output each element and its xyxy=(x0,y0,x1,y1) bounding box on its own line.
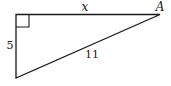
label-side-x: x xyxy=(82,0,89,14)
label-side-5: 5 xyxy=(7,39,14,52)
right-angle-marker xyxy=(16,15,29,28)
label-hypotenuse-11: 11 xyxy=(85,48,99,61)
right-triangle-diagram: x A 5 11 xyxy=(0,0,171,86)
triangle xyxy=(16,15,160,79)
label-vertex-a: A xyxy=(155,0,165,14)
